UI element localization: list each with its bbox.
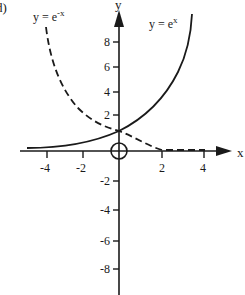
label-exp-x-exponent: x xyxy=(173,15,178,25)
y-tick-label: -2 xyxy=(100,174,110,188)
label-exp-x-base: y = e xyxy=(149,17,173,31)
y-ticks xyxy=(113,42,119,269)
label-exp-x: y = ex xyxy=(149,15,178,31)
x-tick-label: -4 xyxy=(40,161,50,175)
x-tick-label: 4 xyxy=(200,161,206,175)
y-tick-label: 8 xyxy=(104,35,110,49)
y-tick-label: -4 xyxy=(100,203,110,217)
x-axis-arrow-icon xyxy=(216,146,232,156)
y-axis-arrow-icon xyxy=(114,10,124,27)
label-exp-neg-x: y = e-x xyxy=(33,8,65,24)
y-tick-label: -6 xyxy=(100,234,110,248)
x-axis-title: x xyxy=(237,145,244,160)
x-axis: x -4 -2 2 4 xyxy=(20,145,244,175)
label-exp-neg-x-exponent: -x xyxy=(57,8,65,18)
x-tick-label: 2 xyxy=(159,161,165,175)
y-tick-label: 6 xyxy=(104,60,110,74)
x-tick-label: -2 xyxy=(76,161,86,175)
label-exp-neg-x-base: y = e xyxy=(33,10,57,24)
series-exp-neg-x-curve xyxy=(46,27,205,150)
svg-text:y = e-x: y = e-x xyxy=(33,8,65,24)
y-tick-label: 2 xyxy=(104,108,110,122)
svg-text:y = ex: y = ex xyxy=(149,15,178,31)
y-tick-label: -8 xyxy=(100,262,110,276)
panel-label: d) xyxy=(0,0,7,15)
exponential-chart: d) x -4 -2 2 4 y 8 6 4 xyxy=(0,0,245,295)
y-axis-title: y xyxy=(115,0,122,12)
y-tick-label: 4 xyxy=(104,85,110,99)
